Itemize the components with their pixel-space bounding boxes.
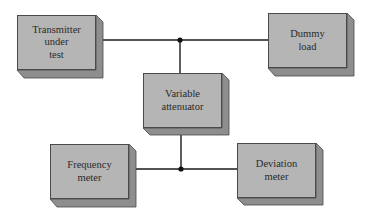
- block-face: Variable attenuator: [143, 73, 222, 128]
- block-face: Deviation meter: [237, 143, 316, 198]
- block-label: Dummy load: [290, 28, 324, 53]
- block-label: Variable attenuator: [162, 88, 204, 113]
- junction-dot-top: [177, 37, 182, 42]
- block-dummy-load: Dummy load: [268, 13, 347, 68]
- block-label: Transmitter under test: [32, 24, 81, 62]
- junction-dot-bottom: [178, 166, 183, 171]
- block-face: Dummy load: [268, 13, 347, 68]
- block-variable-attenuator: Variable attenuator: [143, 73, 222, 128]
- block-face: Transmitter under test: [17, 15, 96, 70]
- block-label: Deviation meter: [256, 158, 297, 183]
- block-deviation-meter: Deviation meter: [237, 143, 316, 198]
- block-face: Frequency meter: [50, 144, 129, 199]
- block-frequency-meter: Frequency meter: [50, 144, 129, 199]
- block-transmitter-under-test: Transmitter under test: [17, 15, 96, 70]
- block-label: Frequency meter: [67, 159, 111, 184]
